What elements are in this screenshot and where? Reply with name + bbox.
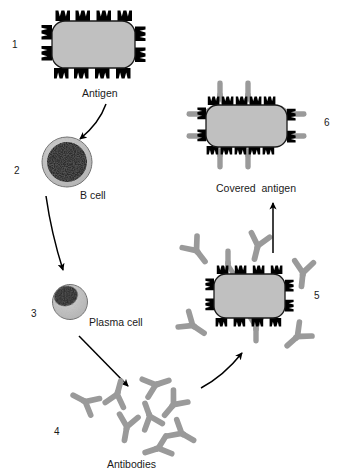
step-number-4: 4 xyxy=(54,427,60,437)
antigen-spike xyxy=(74,68,89,79)
antigen-spike xyxy=(205,299,214,311)
antigen-spike xyxy=(135,27,146,42)
antigen-spike xyxy=(270,318,282,327)
b-cell-nucleus xyxy=(48,143,87,182)
antigen-spike xyxy=(76,11,91,22)
antigen-spike xyxy=(116,68,131,79)
diagram-graphics xyxy=(0,0,347,473)
antigen-spike xyxy=(287,109,296,121)
antigen-spike xyxy=(97,11,112,22)
arrow-antigen-to-bcell xyxy=(80,104,106,139)
antibody xyxy=(277,318,316,357)
antigen-spike xyxy=(42,46,53,61)
arrow-antibodies-to-binding xyxy=(201,353,242,388)
antibody xyxy=(65,383,103,419)
antigen-spike xyxy=(287,131,296,143)
antigen-spike xyxy=(235,265,247,274)
antibody xyxy=(163,416,202,452)
antigen-spike xyxy=(208,96,220,105)
antigen-spike xyxy=(54,68,69,79)
antigen-spike xyxy=(253,265,265,274)
antigen-spike xyxy=(56,11,71,22)
antigen-spike xyxy=(95,68,110,79)
antigen-spike xyxy=(197,108,206,120)
antigen-spike xyxy=(42,25,53,40)
antigen-spike xyxy=(234,318,246,327)
antigen-binding-step5 xyxy=(174,229,316,356)
antigen-body xyxy=(214,274,285,318)
step-number-5: 5 xyxy=(314,291,320,301)
antigen-spike xyxy=(216,318,228,327)
antigen-spike xyxy=(197,130,206,142)
step-number-6: 6 xyxy=(324,118,330,128)
caption-antibodies: Antibodies xyxy=(107,459,156,470)
antibody-cluster-step4 xyxy=(65,368,202,465)
caption-plasma-cell: Plasma cell xyxy=(89,317,143,328)
antigen-spike xyxy=(118,11,133,22)
covered-antigen-step6 xyxy=(187,81,307,170)
antigen-spike xyxy=(135,48,146,63)
caption-b-cell: B cell xyxy=(80,190,106,201)
antibody xyxy=(112,411,141,445)
caption-covered-antigen: Covered antigen xyxy=(216,183,296,194)
antigen-spike xyxy=(252,318,264,327)
antigen-spike xyxy=(217,265,229,274)
antigen-spike xyxy=(271,265,283,274)
step-number-3: 3 xyxy=(31,309,37,319)
b-cell-step2 xyxy=(42,137,92,187)
diagram-canvas: 1 Antigen 2 B cell 3 Plasma cell 4 Antib… xyxy=(0,0,347,473)
antibody xyxy=(139,368,176,401)
antibody xyxy=(242,229,273,265)
arrow-bcell-to-plasmacell xyxy=(46,196,63,270)
antigen-spike xyxy=(205,279,214,291)
caption-antigen: Antigen xyxy=(82,88,118,99)
antibody xyxy=(174,308,213,345)
antigen-spike xyxy=(285,280,294,292)
antigen-spike xyxy=(222,96,234,105)
antigen-body xyxy=(206,105,287,147)
antigen-spike xyxy=(236,96,248,105)
antigen-spike xyxy=(264,96,276,105)
antigen-body xyxy=(52,21,135,68)
step-number-2: 2 xyxy=(14,166,20,176)
step-number-1: 1 xyxy=(12,40,18,50)
antigen-spike xyxy=(250,96,262,105)
antigen-spike xyxy=(285,300,294,312)
antibody xyxy=(102,375,133,411)
plasma-cell-step3 xyxy=(52,283,87,319)
antigen-step1 xyxy=(42,11,146,79)
antibody xyxy=(178,232,216,271)
